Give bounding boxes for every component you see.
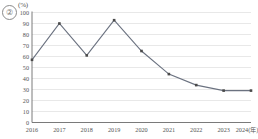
x-axis-tick-label: 2023 <box>217 126 229 133</box>
data-point-marker <box>85 54 88 57</box>
line-chart-svg: 0102030405060708090100 20162017201820192… <box>0 0 258 139</box>
data-point-markers-group <box>31 19 253 92</box>
y-axis-tick-label: 50 <box>23 64 29 71</box>
data-point-marker <box>168 73 171 76</box>
data-point-marker <box>31 59 34 62</box>
x-axis-tick-label: 2018 <box>81 126 93 133</box>
series-line-path <box>32 20 251 90</box>
data-point-marker <box>250 89 253 92</box>
data-point-marker <box>58 22 61 25</box>
data-point-marker <box>195 84 198 87</box>
x-axis-ticks-group: 201620172018201920202021202220232024(年) <box>26 126 258 134</box>
plot-area: 0102030405060708090100 20162017201820192… <box>0 0 258 139</box>
x-axis-tick-label: 2019 <box>108 126 120 133</box>
y-axis-tick-label: 60 <box>23 53 29 60</box>
x-axis-tick-label: 2017 <box>53 126 65 133</box>
data-point-marker <box>113 19 116 22</box>
data-point-marker <box>222 89 225 92</box>
chart-container: ② (%) 0102030405060708090100 20162017201… <box>0 0 258 139</box>
x-axis-tick-label: 2020 <box>135 126 147 133</box>
x-axis-tick-label: 2016 <box>26 126 38 133</box>
y-axis-ticks-group: 0102030405060708090100 <box>20 9 29 126</box>
y-axis-tick-label: 30 <box>23 86 29 93</box>
y-axis-tick-label: 40 <box>23 75 29 82</box>
y-axis-tick-label: 80 <box>23 31 29 38</box>
y-axis-tick-label: 90 <box>23 20 29 27</box>
x-axis-tick-label: 2021 <box>163 126 175 133</box>
y-axis-tick-label: 70 <box>23 42 29 49</box>
y-axis-tick-label: 100 <box>20 9 29 16</box>
y-axis-tick-label: 10 <box>23 108 29 115</box>
data-point-marker <box>140 50 143 53</box>
x-axis-tick-label: 2022 <box>190 126 202 133</box>
y-axis-tick-label: 20 <box>23 97 29 104</box>
x-axis-tick-label: 2024(年) <box>236 126 258 134</box>
gridlines-group <box>32 13 251 112</box>
